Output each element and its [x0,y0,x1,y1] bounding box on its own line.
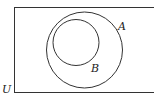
set-a-label: A [117,20,126,33]
set-a-circle [47,12,123,88]
set-b-label: B [90,62,99,75]
venn-diagram: A B U [0,0,154,99]
universal-set-label: U [2,83,12,96]
set-b-circle [53,20,99,66]
universal-set-rect [15,8,155,93]
